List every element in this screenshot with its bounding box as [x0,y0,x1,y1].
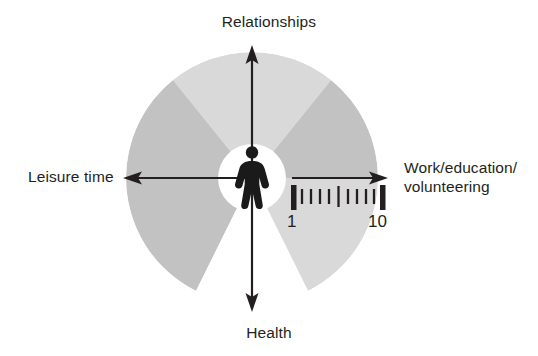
sector-leisure [126,178,252,291]
axis-label-health: Health [0,323,538,342]
axis-label-work: Work/education/ volunteering [404,158,517,196]
scale-min-label: 1 [287,212,296,232]
sector-work [252,178,378,291]
scale-end-bar-min [291,185,297,210]
axis-label-leisure: Leisure time [28,167,114,186]
scale-max-label: 10 [368,212,387,232]
scale-end-bar-max [380,185,386,210]
axis-label-relationships: Relationships [0,12,538,31]
